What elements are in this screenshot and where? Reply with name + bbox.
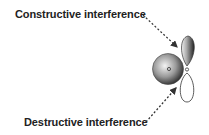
constructive-arrow	[143, 15, 177, 47]
p-orbital-lower-lobe	[180, 73, 194, 102]
s-orbital-sphere	[153, 54, 184, 85]
destructive-arrow	[146, 88, 176, 122]
orbital-diagram	[0, 0, 209, 135]
p-orbital-upper-lobe	[182, 36, 195, 66]
p-nucleus	[185, 68, 188, 71]
